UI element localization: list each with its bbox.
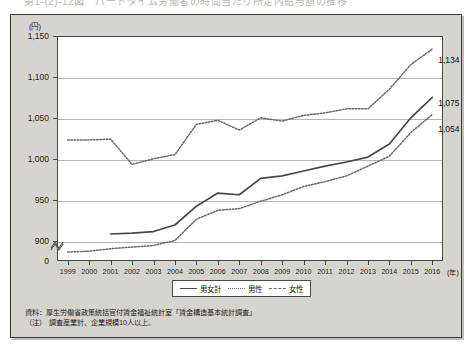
x-axis-label: 2008: [253, 267, 269, 276]
x-axis-tick: [368, 261, 369, 265]
x-axis-tick: [304, 261, 305, 265]
x-axis-label: 2001: [103, 267, 119, 276]
x-axis-tick: [111, 261, 112, 265]
x-axis-tick: [347, 261, 348, 265]
legend-label: 女性: [289, 283, 303, 294]
y-axis-label: 900: [35, 236, 49, 246]
x-axis-tick: [132, 261, 133, 265]
x-axis-tick: [325, 261, 326, 265]
y-axis-label: 1,100: [28, 72, 49, 82]
x-axis-tick: [175, 261, 176, 265]
legend-item-dashed[interactable]: 女性: [269, 283, 303, 294]
gridline: [58, 78, 442, 79]
x-axis-label: 2006: [210, 267, 226, 276]
x-axis-label: 2014: [381, 267, 397, 276]
x-axis-label: 2009: [274, 267, 290, 276]
figure-title-text: 第1-(2)-12図 パートタイム労働者の時間当たり所定内給与額の推移: [24, 0, 347, 8]
x-axis-label: 2000: [81, 267, 97, 276]
x-axis-label: 2013: [360, 267, 376, 276]
female-end-label: 1,054: [438, 124, 459, 134]
y-axis-label: 1,150: [28, 31, 49, 41]
legend-item-solid[interactable]: 男女計: [180, 283, 221, 294]
y-axis-label: 0: [44, 256, 49, 266]
legend-swatch-solid-icon: [180, 285, 197, 292]
x-axis-tick: [218, 261, 219, 265]
legend-item-dotted[interactable]: 男性: [228, 283, 262, 294]
y-axis-tick: [53, 200, 57, 201]
gridline: [58, 242, 442, 243]
gridline: [58, 160, 442, 161]
x-axis-label: 2003: [146, 267, 162, 276]
axis-break-icon: [50, 239, 64, 251]
figure-title-cutoff: 第1-(2)-12図 パートタイム労働者の時間当たり所定内給与額の推移: [0, 0, 476, 14]
male-end-label: 1,134: [438, 55, 459, 65]
x-axis-tick: [261, 261, 262, 265]
figure-panel: (円) 男女計男性女性 資料：厚生労働省政策統括官付賃金福祉統計室「賃金構造基本…: [10, 14, 462, 338]
footnote: （注） 調査産業計、企業規模10人以上。: [25, 317, 155, 327]
x-axis-label: 2010: [296, 267, 312, 276]
total-end-label: 1,075: [438, 98, 459, 108]
x-axis-tick: [282, 261, 283, 265]
x-axis-tick: [154, 261, 155, 265]
gridline: [58, 119, 442, 120]
y-axis-tick: [53, 118, 57, 119]
y-axis-tick: [53, 36, 57, 37]
chart-figure: 第1-(2)-12図 パートタイム労働者の時間当たり所定内給与額の推移 (円) …: [0, 0, 476, 349]
x-axis-label: 1999: [60, 267, 76, 276]
x-axis-tick: [196, 261, 197, 265]
x-axis-label: 2004: [167, 267, 183, 276]
gridline: [58, 201, 442, 202]
x-axis-label: 2016: [424, 267, 440, 276]
x-axis-tick: [89, 261, 90, 265]
x-axis-tick: [389, 261, 390, 265]
legend-label: 男女計: [200, 283, 221, 294]
y-axis-label: 1,000: [28, 154, 49, 164]
x-axis-label: 2005: [188, 267, 204, 276]
y-axis-label: 950: [35, 195, 49, 205]
x-axis-unit-label: (年): [447, 267, 459, 277]
x-axis-tick: [432, 261, 433, 265]
x-axis-label: 2015: [403, 267, 419, 276]
chart-legend: 男女計男性女性: [172, 280, 311, 297]
x-axis-label: 2012: [339, 267, 355, 276]
y-axis-tick: [53, 159, 57, 160]
x-axis-label: 2007: [231, 267, 247, 276]
x-axis-tick: [68, 261, 69, 265]
y-axis-unit-label: (円): [29, 20, 41, 31]
y-axis-label: 1,050: [28, 113, 49, 123]
legend-swatch-dotted-icon: [228, 285, 245, 292]
x-axis-label: 2011: [317, 267, 332, 276]
x-axis-label: 2002: [124, 267, 140, 276]
plot-area: [57, 36, 443, 261]
source-note: 資料：厚生労働省政策統括官付賃金福祉統計室「賃金構造基本統計調査」: [25, 307, 256, 317]
legend-label: 男性: [248, 283, 262, 294]
x-axis-tick: [411, 261, 412, 265]
legend-swatch-dashed-icon: [269, 285, 286, 292]
y-axis-tick: [53, 77, 57, 78]
x-axis-tick: [239, 261, 240, 265]
